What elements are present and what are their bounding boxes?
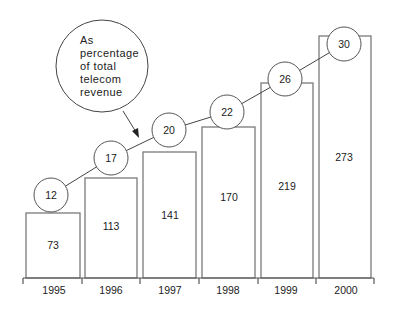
bar-value: 170 [220, 191, 238, 203]
callout-arrow-icon [123, 111, 139, 138]
x-axis-labels: 1995 1996 1997 1998 1999 2000 [42, 284, 358, 296]
bar-value: 273 [335, 151, 353, 163]
bar-value: 113 [103, 220, 120, 232]
percentage-value: 12 [45, 189, 57, 201]
callout-bubble: As percentage of total telecom revenue [56, 20, 148, 112]
percentage-value: 26 [279, 73, 291, 85]
x-tick-label: 2000 [334, 284, 358, 296]
callout-line: As [80, 34, 94, 46]
x-tick-label: 1998 [216, 284, 240, 296]
callout-line: percentage [80, 47, 139, 59]
callout-line: telecom [80, 73, 121, 85]
bar-value: 141 [161, 209, 179, 221]
callout-line: of total [80, 60, 116, 72]
chart-canvas: 73 113 141 170 219 273 1995 1996 1997 19… [0, 0, 396, 315]
bar-value: 73 [47, 239, 59, 251]
bar-value: 219 [278, 180, 296, 192]
x-axis [23, 278, 374, 284]
percentage-value: 30 [338, 38, 350, 50]
x-tick-label: 1997 [158, 284, 182, 296]
percentage-value: 20 [163, 124, 175, 136]
callout-line: revenue [80, 86, 123, 98]
x-tick-label: 1999 [274, 284, 298, 296]
percentage-value: 17 [105, 152, 117, 164]
x-tick-label: 1996 [99, 284, 123, 296]
x-tick-label: 1995 [42, 284, 66, 296]
percentage-value: 22 [221, 106, 233, 118]
